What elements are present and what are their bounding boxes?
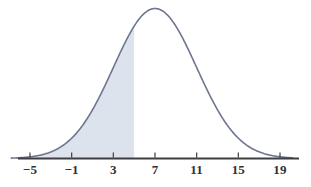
x-axis-tick-label: 7 <box>152 163 159 176</box>
x-axis-tick-label: 11 <box>190 163 203 176</box>
normal-density-curve <box>11 9 292 159</box>
normal-distribution-figure: −5−137111519 <box>0 0 311 187</box>
x-axis-tick-label: −1 <box>65 163 79 176</box>
shaded-tail-area <box>11 26 134 158</box>
x-axis-tick-label: −5 <box>23 163 37 176</box>
x-axis-tick-label: 15 <box>232 163 245 176</box>
normal-curve-plot <box>0 0 311 187</box>
x-axis-tick-label: 3 <box>110 163 117 176</box>
x-axis-tick-label: 19 <box>273 163 286 176</box>
